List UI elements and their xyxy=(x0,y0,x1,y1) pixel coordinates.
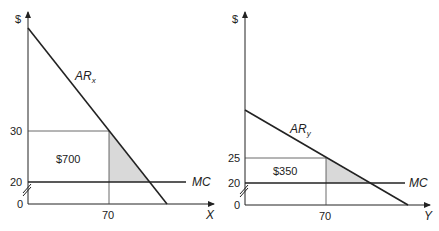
ytick-25: 25 xyxy=(228,152,240,164)
y-axis-label: $ xyxy=(15,13,21,25)
ar-demand-line xyxy=(245,110,408,205)
ar-label: ARx xyxy=(74,69,97,85)
ar-demand-line xyxy=(28,28,167,204)
ytick-20: 20 xyxy=(10,176,22,188)
ytick-20: 20 xyxy=(228,177,240,189)
diagram-canvas: $ 30 20 0 70 X MC ARx $700 $ 25 20 0 70 … xyxy=(0,0,439,231)
x-axis-label: Y xyxy=(424,209,433,223)
x-axis-label: X xyxy=(205,208,215,222)
y-axis-label: $ xyxy=(232,13,238,25)
panel-y: $ 25 20 0 70 Y MC ARy $350 xyxy=(228,12,433,223)
ytick-0: 0 xyxy=(17,198,23,210)
ytick-30: 30 xyxy=(10,125,22,137)
ytick-0: 0 xyxy=(234,199,240,211)
profit-label: $700 xyxy=(56,153,80,165)
ar-label: ARy xyxy=(289,122,312,138)
profit-label: $350 xyxy=(273,165,297,177)
xtick-70: 70 xyxy=(102,209,114,221)
xtick-70: 70 xyxy=(319,210,331,222)
mc-label: MC xyxy=(409,176,428,190)
panel-x: $ 30 20 0 70 X MC ARx $700 xyxy=(10,12,215,222)
mc-label: MC xyxy=(192,175,211,189)
